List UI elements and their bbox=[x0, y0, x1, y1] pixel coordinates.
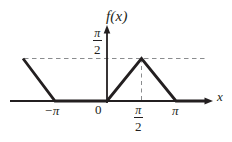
fraction-denominator: 2 bbox=[93, 42, 102, 56]
function-curve bbox=[23, 59, 205, 102]
y-axis-arrowhead bbox=[104, 25, 111, 34]
y-axis-value-pi-over-2: π 2 bbox=[93, 27, 102, 56]
fraction-numerator: π bbox=[93, 27, 102, 40]
x-tick-label-pi: π bbox=[172, 104, 179, 117]
function-graph-figure: f(x) π 2 x 0 −π π 2 π bbox=[0, 0, 232, 142]
function-axis-label: f(x) bbox=[106, 9, 128, 24]
x-tick-label-pi-over-2: π 2 bbox=[134, 104, 143, 133]
fraction-bar bbox=[93, 40, 102, 41]
origin-label: 0 bbox=[95, 103, 102, 116]
fraction-numerator: π bbox=[134, 104, 143, 117]
fraction-denominator: 2 bbox=[134, 119, 143, 133]
x-axis-label: x bbox=[217, 90, 223, 103]
fraction-bar bbox=[134, 117, 143, 118]
x-tick-label-negative-pi: −π bbox=[44, 104, 59, 117]
x-axis-arrowhead bbox=[205, 98, 214, 105]
